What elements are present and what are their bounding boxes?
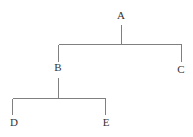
node-label-a: A <box>101 10 141 21</box>
node-label-d: D <box>0 117 34 128</box>
node-label-b: B <box>38 62 78 73</box>
node-label-c: C <box>161 64 193 75</box>
node-label-e: E <box>86 117 126 128</box>
tree-diagram-canvas: A B C D E <box>0 0 193 137</box>
